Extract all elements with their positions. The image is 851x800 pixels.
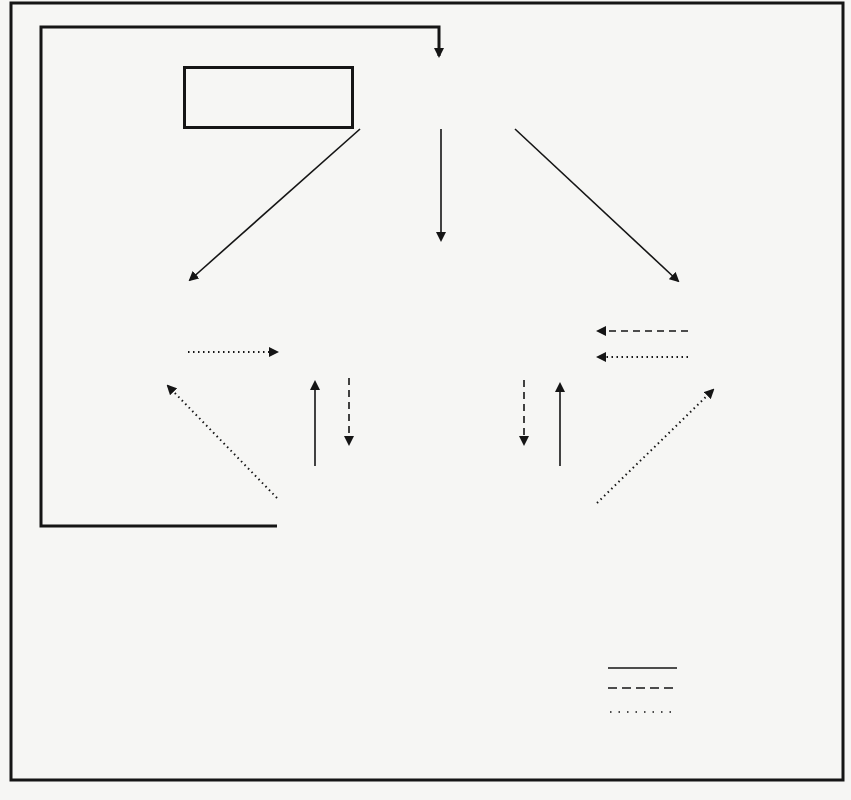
funding-agencies-box	[183, 66, 354, 129]
info-population-to-university	[597, 390, 713, 503]
money-funding-to-planning	[190, 129, 360, 280]
outer-frame	[11, 3, 843, 780]
info-population-to-planning	[168, 386, 277, 498]
money-funding-to-university	[515, 129, 678, 281]
connector-layer	[0, 0, 851, 800]
